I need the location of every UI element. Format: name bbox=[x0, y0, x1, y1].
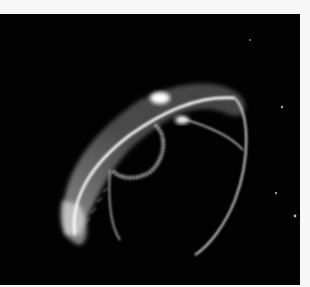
particle bbox=[281, 106, 283, 108]
particle bbox=[294, 215, 297, 218]
jellyfish-photo bbox=[0, 14, 300, 285]
radial-canal bbox=[180, 118, 243, 150]
jellyfish-illustration bbox=[0, 14, 300, 285]
particle bbox=[275, 192, 277, 194]
bell bbox=[63, 84, 245, 235]
gonad-mid bbox=[175, 116, 189, 124]
gonad-top bbox=[150, 92, 170, 104]
radial-canal-2 bbox=[109, 170, 120, 240]
outer-rim bbox=[195, 98, 246, 255]
particle bbox=[249, 39, 251, 41]
